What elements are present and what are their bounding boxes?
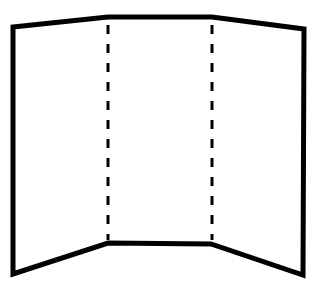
- trifold-board-svg: [0, 0, 328, 301]
- board-outline: [13, 17, 304, 275]
- trifold-board-diagram: [0, 0, 328, 301]
